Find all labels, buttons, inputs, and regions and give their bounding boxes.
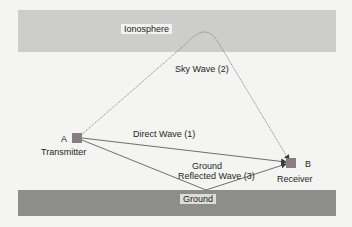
ground-reflected-label-line2: Reflected Wave (3) [178,171,255,181]
propagation-diagram: Ionosphere Ground A Transmitter B Receiv… [0,0,352,227]
direct-wave-label: Direct Wave (1) [133,129,195,139]
ground-label: Ground [180,194,216,204]
receiver-label: Receiver [277,174,313,184]
wave-paths [0,0,352,227]
sky-wave-path [80,32,289,160]
transmitter-node [72,133,82,143]
ground-reflected-label-line1: Ground [192,161,222,171]
receiver-node [286,158,296,168]
ground-reflected-wave-path [82,140,286,190]
direct-wave-path [82,138,286,162]
sky-wave-label: Sky Wave (2) [175,64,229,74]
receiver-id: B [305,159,311,169]
ionosphere-label: Ionosphere [121,24,172,34]
transmitter-label: Transmitter [41,147,86,157]
transmitter-id: A [61,134,67,144]
